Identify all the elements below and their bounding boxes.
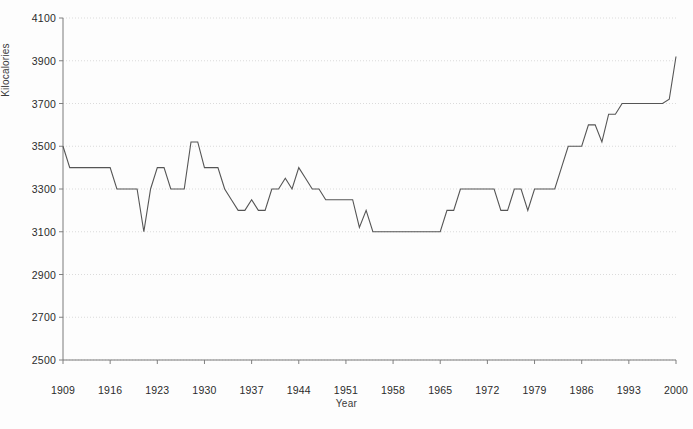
data-series-line xyxy=(63,56,676,231)
x-axis-title: Year xyxy=(0,398,693,409)
y-tick-label: 2700 xyxy=(32,311,56,323)
y-tick-label: 3100 xyxy=(32,226,56,238)
y-tick-marks xyxy=(59,18,63,360)
x-tick-label: 1986 xyxy=(570,384,594,396)
y-tick-label: 3300 xyxy=(32,183,56,195)
y-tick-label: 3500 xyxy=(32,140,56,152)
y-tick-label: 3700 xyxy=(32,98,56,110)
x-tick-label: 1958 xyxy=(381,384,405,396)
x-tick-label: 1951 xyxy=(334,384,358,396)
x-tick-label: 2000 xyxy=(664,384,688,396)
chart-svg xyxy=(63,18,676,360)
x-tick-label: 1979 xyxy=(522,384,546,396)
gridlines xyxy=(63,18,676,360)
x-tick-label: 1944 xyxy=(287,384,311,396)
x-tick-label: 1930 xyxy=(192,384,216,396)
x-tick-marks xyxy=(63,360,676,364)
x-tick-label: 1965 xyxy=(428,384,452,396)
y-axis-title: Kilocalories xyxy=(0,0,11,140)
y-tick-label: 2500 xyxy=(32,354,56,366)
x-tick-label: 1993 xyxy=(617,384,641,396)
y-tick-label: 2900 xyxy=(32,269,56,281)
x-tick-label: 1937 xyxy=(240,384,264,396)
x-tick-label: 1916 xyxy=(98,384,122,396)
kilocalories-line-chart: Kilocalories 250027002900310033003500370… xyxy=(0,0,693,429)
x-tick-label: 1909 xyxy=(51,384,75,396)
y-tick-label: 3900 xyxy=(32,55,56,67)
x-tick-label: 1923 xyxy=(145,384,169,396)
y-tick-label: 4100 xyxy=(32,12,56,24)
plot-area: 250027002900310033003500370039004100 190… xyxy=(63,18,676,360)
x-tick-label: 1972 xyxy=(475,384,499,396)
